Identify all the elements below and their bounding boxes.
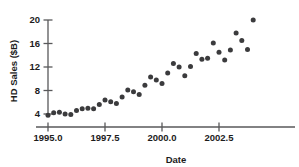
data-points bbox=[46, 18, 256, 118]
data-point bbox=[217, 50, 222, 55]
x-tick-label: 1995.0 bbox=[33, 132, 62, 143]
data-point bbox=[177, 65, 182, 70]
data-point bbox=[91, 106, 96, 111]
data-point bbox=[63, 112, 68, 117]
data-point bbox=[46, 113, 51, 118]
data-point bbox=[120, 94, 125, 99]
data-point bbox=[68, 112, 73, 117]
data-point bbox=[251, 18, 256, 23]
x-tick-label: 1997.5 bbox=[90, 132, 120, 143]
data-point bbox=[85, 106, 90, 111]
data-point bbox=[142, 83, 147, 88]
chart-svg: 48121620 1995.01997.52000.02002.5 HD Sal… bbox=[0, 0, 299, 167]
data-point bbox=[137, 92, 142, 97]
y-tick-label: 8 bbox=[35, 85, 40, 96]
x-axis-title: Date bbox=[166, 154, 187, 165]
data-point bbox=[182, 73, 187, 78]
x-tick-label: 2000.0 bbox=[147, 132, 176, 143]
data-point bbox=[125, 87, 130, 92]
data-point bbox=[97, 102, 102, 107]
y-tick-label: 12 bbox=[29, 61, 40, 72]
data-point bbox=[131, 89, 136, 94]
data-point bbox=[74, 108, 79, 113]
data-point bbox=[160, 81, 165, 86]
x-axis: 1995.01997.52000.02002.5 bbox=[33, 123, 295, 144]
data-point bbox=[57, 110, 62, 115]
data-point bbox=[154, 77, 159, 82]
data-point bbox=[234, 30, 239, 35]
data-point bbox=[171, 61, 176, 66]
data-point bbox=[228, 47, 233, 52]
y-axis: 48121620 bbox=[29, 14, 52, 119]
data-point bbox=[245, 47, 250, 52]
data-point bbox=[205, 56, 210, 61]
data-point bbox=[188, 64, 193, 69]
y-tick-label: 20 bbox=[29, 14, 40, 25]
data-point bbox=[114, 101, 119, 106]
data-point bbox=[194, 51, 199, 56]
data-point bbox=[222, 57, 227, 62]
data-point bbox=[108, 99, 113, 104]
data-point bbox=[211, 40, 216, 45]
data-point bbox=[51, 110, 56, 115]
y-axis-title: HD Sales ($B) bbox=[8, 40, 19, 102]
data-point bbox=[165, 70, 170, 75]
data-point bbox=[148, 74, 153, 79]
data-point bbox=[239, 38, 244, 43]
x-tick-label: 2002.5 bbox=[204, 132, 234, 143]
y-tick-label: 16 bbox=[29, 38, 40, 49]
data-point bbox=[80, 106, 85, 111]
data-point bbox=[103, 97, 108, 102]
data-point bbox=[199, 57, 204, 62]
scatter-chart: 48121620 1995.01997.52000.02002.5 HD Sal… bbox=[0, 0, 299, 167]
y-tick-label: 4 bbox=[35, 108, 41, 119]
